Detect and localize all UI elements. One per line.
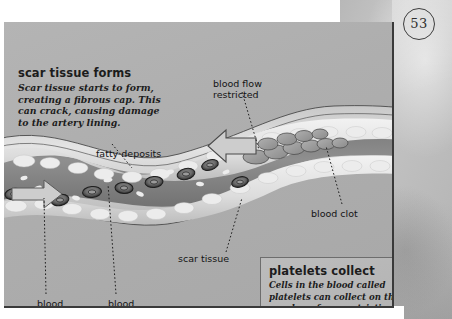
label-line: blood flow bbox=[213, 78, 262, 89]
illustration-panel: scar tissue forms Scar tissue starts to … bbox=[4, 22, 394, 308]
page-margin-top bbox=[0, 0, 340, 22]
label-blood-clot: blood clot bbox=[311, 208, 358, 219]
label-line: blood bbox=[37, 298, 63, 308]
caption-platelets-collect-body: Cells in the blood called platelets can … bbox=[269, 280, 390, 308]
caption-line: to the artery lining. bbox=[18, 117, 161, 129]
label-line: blood bbox=[108, 298, 149, 308]
caption-line: platelets can collect on the bbox=[269, 292, 390, 304]
label-scar-tissue: scar tissue bbox=[178, 253, 229, 264]
caption-line: rough surface, restricting bbox=[269, 303, 390, 308]
label-blood-flow: blood flow bbox=[37, 298, 63, 308]
caption-scar-tissue-forms: scar tissue forms Scar tissue starts to … bbox=[18, 66, 161, 128]
caption-scar-tissue-forms-body: Scar tissue starts to form, creating a f… bbox=[18, 82, 161, 128]
label-line: restricted bbox=[213, 89, 262, 100]
caption-line: Cells in the blood called bbox=[269, 280, 390, 292]
caption-line: can crack, causing damage bbox=[18, 105, 161, 117]
caption-line: creating a fibrous cap. This bbox=[18, 94, 161, 106]
caption-scar-tissue-forms-title: scar tissue forms bbox=[18, 66, 161, 80]
label-blood-flow-restricted: blood flow restricted bbox=[213, 78, 262, 100]
page-root: 53 bbox=[0, 0, 452, 319]
caption-platelets-collect-title: platelets collect bbox=[269, 264, 390, 278]
caption-platelets-collect: platelets collect Cells in the blood cal… bbox=[260, 257, 394, 308]
label-fatty-deposits: fatty deposits bbox=[96, 148, 161, 159]
caption-line: Scar tissue starts to form, bbox=[18, 82, 161, 94]
label-blood-platelets: blood platelets bbox=[108, 298, 149, 308]
page-number-badge: 53 bbox=[403, 8, 435, 40]
